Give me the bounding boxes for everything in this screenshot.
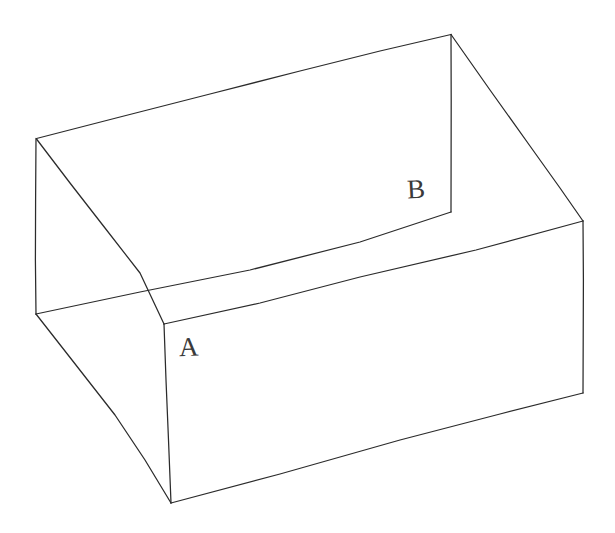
edge-inner-floor-long <box>36 212 451 314</box>
edge-bottom-front-right <box>171 393 583 503</box>
edge-left-outer-vertical <box>35 139 36 315</box>
edge-top-rim-back-right <box>451 35 583 222</box>
open-box-perspective-drawing <box>0 0 615 533</box>
edge-inner-rim-left <box>37 139 165 324</box>
figure-root: A B <box>0 0 615 533</box>
vertex-label-a: A <box>179 334 200 362</box>
edge-front-vertical <box>164 324 171 503</box>
edge-inner-floor-front <box>164 221 583 324</box>
edge-top-rim-back-left <box>37 35 452 139</box>
vertex-label-b: B <box>406 176 426 204</box>
edge-bottom-front-left <box>36 314 171 503</box>
